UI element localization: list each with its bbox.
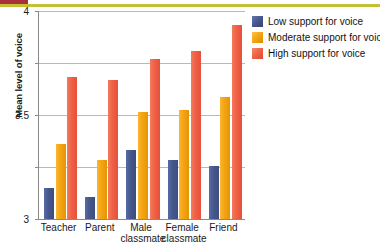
- legend-swatch-moderate-support: [252, 32, 263, 43]
- legend-item: Low support for voice: [252, 14, 380, 28]
- bar: [85, 197, 95, 219]
- bar: [168, 160, 178, 219]
- y-axis-title: Mean level of voice: [13, 6, 24, 146]
- bar: [232, 25, 242, 219]
- x-tick-line-1: Female: [166, 222, 199, 233]
- legend-item-label: High support for voice: [268, 48, 365, 59]
- x-axis-tick-label: Teacher: [38, 222, 79, 233]
- x-tick-line-1: Teacher: [41, 222, 77, 233]
- y-axis-tick: 2: [35, 219, 39, 220]
- x-tick-line-1: Parent: [85, 222, 114, 233]
- plot-area: 22.533.54: [38, 11, 245, 219]
- bar: [138, 112, 148, 219]
- y-axis-tick-label: 4: [23, 6, 29, 17]
- bar: [150, 59, 160, 219]
- legend-swatch-low-support: [252, 16, 263, 27]
- bar: [56, 144, 66, 219]
- legend-item-label: Moderate support for voice: [268, 32, 380, 43]
- bar: [126, 150, 136, 219]
- chart-legend: Low support for voiceModerate support fo…: [252, 14, 380, 62]
- legend-item-label: Low support for voice: [268, 16, 363, 27]
- bar-group: [85, 11, 118, 219]
- bar-group: [209, 11, 242, 219]
- bar-group: [168, 11, 201, 219]
- legend-item: High support for voice: [252, 46, 380, 60]
- bar: [191, 51, 201, 219]
- bar: [209, 166, 219, 219]
- bar: [44, 188, 54, 219]
- x-tick-line-1: Friend: [209, 222, 237, 233]
- x-axis-tick-label: Femaleclassmate: [162, 222, 203, 244]
- x-axis-tick-label: Friend: [203, 222, 244, 233]
- x-tick-line-1: Male: [130, 222, 152, 233]
- x-tick-line-2: classmate: [162, 233, 203, 244]
- bars-layer: [39, 11, 245, 219]
- bar-chart-figure: Mean level of voice 22.533.54 TeacherPar…: [0, 0, 380, 248]
- bar: [67, 77, 77, 219]
- legend-item: Moderate support for voice: [252, 30, 380, 44]
- bar: [179, 110, 189, 219]
- x-tick-line-2: classmate: [120, 233, 161, 244]
- y-axis-tick-label: 3: [23, 214, 29, 225]
- x-axis-tick-label: Maleclassmate: [120, 222, 161, 244]
- bar: [220, 97, 230, 219]
- gridline: [39, 219, 245, 220]
- bar: [97, 160, 107, 219]
- y-axis-tick-label: 3.5: [15, 110, 29, 121]
- legend-swatch-high-support: [252, 48, 263, 59]
- bar: [108, 80, 118, 219]
- bar-group: [44, 11, 77, 219]
- bar-group: [126, 11, 159, 219]
- x-axis-tick-label: Parent: [79, 222, 120, 233]
